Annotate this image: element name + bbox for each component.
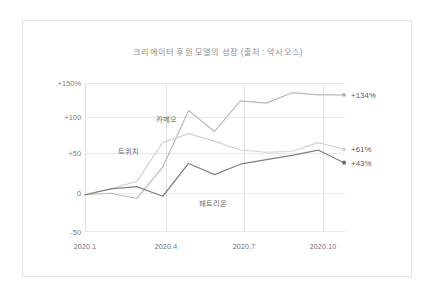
series-endpoint-patreon: [342, 161, 346, 165]
x-tick-2020-1: 2020.1: [74, 243, 97, 250]
plot-area: 카메오 트위치 패트리온 +134% +61% +43%: [85, 83, 345, 232]
horizontal-gridlines: [85, 84, 345, 232]
end-value-patreon: +43%: [351, 158, 372, 167]
x-axis: 2020.1 2020.4 2020.7 2020.10: [85, 243, 345, 257]
series-line-twitch: [85, 134, 344, 195]
series-label-twitch: 트위치: [118, 145, 139, 156]
y-tick-neg50: -50: [70, 228, 81, 237]
y-tick-100: +100: [64, 113, 81, 122]
series-label-patreon: 패트리온: [199, 197, 227, 208]
x-tick-2020-7: 2020.7: [233, 243, 256, 250]
line-chart-svg: [85, 83, 345, 232]
x-tick-2020-10: 2020.10: [310, 243, 337, 250]
series-line-patreon: [85, 150, 344, 196]
x-tick-2020-4: 2020.4: [155, 243, 178, 250]
y-tick-50: +50: [68, 149, 81, 158]
series-label-cameo: 카메오: [156, 113, 177, 124]
chart-card: 크리에이터 후원 모델의 성장 (출처 : 악시오스) +150% +100 +…: [22, 20, 412, 277]
y-axis: +150% +100 +50 0 -50: [47, 83, 81, 232]
end-value-twitch: +61%: [351, 145, 372, 154]
series-endpoint-twitch: [342, 147, 346, 151]
y-tick-150: +150%: [58, 79, 81, 88]
end-value-cameo: +134%: [351, 90, 376, 99]
page-title: 크리에이터 후원 모델의 성장 (출처 : 악시오스): [23, 45, 413, 57]
series-endpoint-cameo: [342, 93, 346, 97]
vertical-gridlines: [86, 83, 324, 232]
y-tick-0: 0: [77, 189, 81, 198]
screenshot-root: 크리에이터 후원 모델의 성장 (출처 : 악시오스) +150% +100 +…: [0, 0, 434, 296]
